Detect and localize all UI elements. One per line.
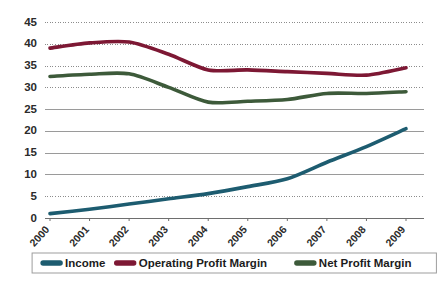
chart-legend: IncomeOperating Profit MarginNet Profit …	[32, 253, 436, 273]
x-tick-label-2009: 2009	[383, 223, 408, 249]
y-tick-label-0: 0	[31, 212, 37, 224]
y-tick-label-30: 30	[24, 81, 37, 93]
x-tick-label-2006: 2006	[264, 223, 289, 249]
x-axis-tick-labels: 2000200120022003200420052006200720082009	[27, 218, 408, 249]
y-tick-label-20: 20	[24, 124, 37, 136]
x-tick-label-2004: 2004	[185, 223, 210, 249]
chart-canvas: 051015202530354045 200020012002200320042…	[0, 0, 439, 285]
series-line-operating-profit-margin	[50, 41, 406, 75]
y-axis-tick-labels: 051015202530354045	[24, 16, 37, 224]
y-tick-label-5: 5	[31, 190, 38, 202]
line-chart: 051015202530354045 200020012002200320042…	[0, 0, 439, 285]
legend-label-net-profit-margin[interactable]: Net Profit Margin	[319, 257, 412, 269]
y-tick-label-25: 25	[24, 103, 37, 115]
x-tick-label-2002: 2002	[106, 223, 131, 249]
series-line-net-profit-margin	[50, 73, 406, 103]
x-tick-label-2003: 2003	[146, 223, 171, 249]
x-tick-label-2000: 2000	[27, 223, 52, 249]
y-tick-label-40: 40	[24, 37, 37, 49]
y-tick-label-45: 45	[24, 16, 37, 28]
legend-label-operating-profit-margin[interactable]: Operating Profit Margin	[139, 257, 267, 269]
y-tick-label-35: 35	[24, 59, 37, 71]
legend-label-income[interactable]: Income	[65, 257, 105, 269]
x-tick-label-2005: 2005	[225, 223, 250, 249]
series-line-income	[50, 129, 406, 214]
y-tick-label-15: 15	[24, 146, 37, 158]
y-tick-label-10: 10	[24, 168, 37, 180]
x-tick-label-2001: 2001	[66, 223, 91, 249]
x-tick-label-2007: 2007	[304, 223, 329, 249]
data-series-group	[50, 41, 406, 213]
x-tick-label-2008: 2008	[343, 223, 368, 249]
